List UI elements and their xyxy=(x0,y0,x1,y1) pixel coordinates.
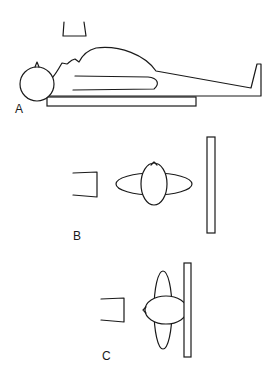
label-b: B xyxy=(73,229,81,243)
positioning-diagram: A B C xyxy=(0,0,273,374)
label-a: A xyxy=(15,102,23,116)
detector-b xyxy=(207,137,215,233)
nose-a xyxy=(35,62,39,67)
arm-a xyxy=(73,76,157,90)
detector-c xyxy=(184,263,191,357)
xray-tube-c xyxy=(101,298,124,322)
head-a xyxy=(20,67,54,101)
panel-b: B xyxy=(73,137,215,243)
label-c: C xyxy=(102,349,111,363)
patient-body-a xyxy=(50,47,261,96)
panel-a: A xyxy=(15,22,261,116)
xray-tube-a xyxy=(63,22,86,36)
xray-tube-b xyxy=(73,172,97,197)
table-a xyxy=(47,97,196,106)
head-b xyxy=(141,163,167,205)
head-c xyxy=(145,296,187,324)
panel-c: C xyxy=(101,263,191,363)
